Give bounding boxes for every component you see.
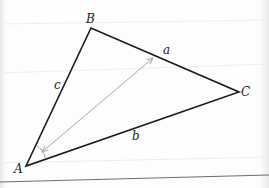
vertex-label-c: C — [241, 85, 250, 99]
side-label-a: a — [163, 43, 170, 57]
triangle-diagram: B C A a b c — [0, 0, 269, 188]
triangle-abc — [26, 28, 239, 166]
diagram-canvas: B C A a b c — [0, 0, 269, 188]
page-rule-line — [0, 20, 269, 24]
baseline — [0, 175, 269, 182]
vertex-label-b: B — [85, 12, 95, 26]
page-rule-line — [0, 64, 269, 73]
page-rule-line — [0, 157, 269, 163]
vertex-label-a: A — [13, 162, 23, 176]
angle-mark-a — [36, 145, 45, 158]
side-label-c: c — [54, 78, 61, 92]
side-label-b: b — [132, 129, 140, 143]
